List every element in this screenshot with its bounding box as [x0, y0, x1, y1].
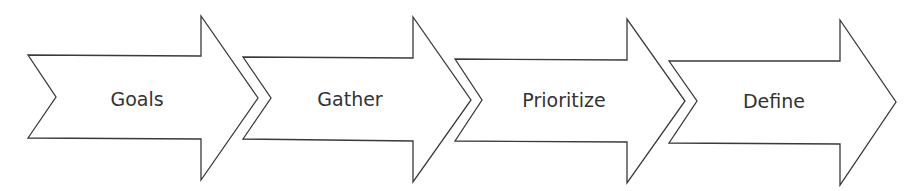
step-label: Goals — [110, 88, 163, 110]
process-step-goals: Goals — [28, 16, 258, 180]
process-step-gather: Gather — [243, 17, 471, 182]
process-step-prioritize: Prioritize — [455, 19, 685, 183]
process-flow-diagram: Goals Gather Prioritize Define — [0, 0, 923, 191]
process-step-define: Define — [669, 20, 896, 185]
step-label: Gather — [317, 88, 383, 110]
step-label: Prioritize — [522, 89, 605, 111]
step-label: Define — [743, 90, 805, 112]
